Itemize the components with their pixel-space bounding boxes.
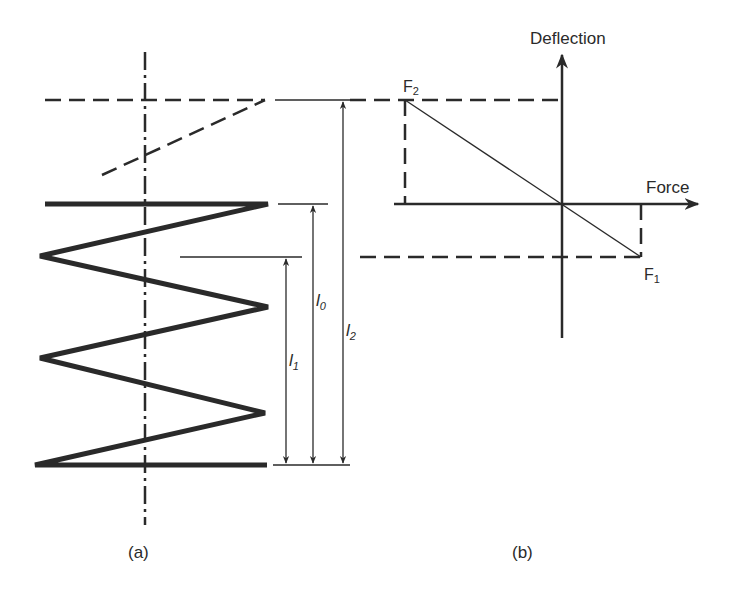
x-axis-label: Force <box>646 178 689 197</box>
extended-coil-dashed-line <box>102 100 265 175</box>
label-l2: l2 <box>346 321 356 342</box>
label-l1: l1 <box>289 351 299 372</box>
caption-a: (a) <box>128 543 149 562</box>
spring-coil <box>35 204 268 465</box>
panel-b: Deflection Force F2 F1 (b) <box>350 29 698 562</box>
spring-diagram: l1 l0 l2 (a) Deflection Force F2 F <box>0 0 741 596</box>
panel-a: l1 l0 l2 (a) <box>35 52 356 562</box>
label-f2: F2 <box>403 78 419 97</box>
spring-characteristic-line <box>405 100 641 257</box>
label-f1: F1 <box>644 266 660 285</box>
caption-b: (b) <box>512 543 533 562</box>
label-l0: l0 <box>316 291 327 312</box>
y-axis-label: Deflection <box>530 29 606 48</box>
